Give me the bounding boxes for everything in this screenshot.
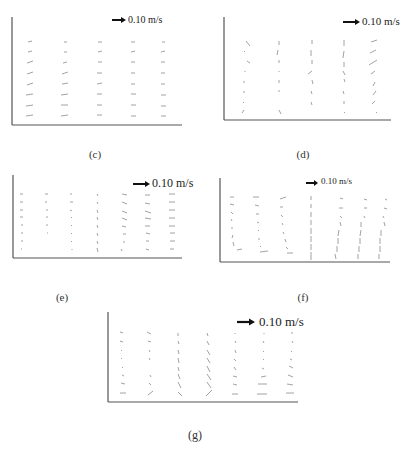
legend-label: 0.10 m/s	[152, 176, 193, 191]
vector-field	[120, 332, 294, 396]
vector-field	[26, 41, 166, 116]
panel-caption: (e)	[56, 291, 68, 303]
panel-caption: (c)	[89, 148, 101, 160]
panel-f: 0.10 m/s (f)	[200, 170, 404, 310]
quiver-plot-f	[200, 170, 404, 310]
panel-c: 0.10 m/s (c)	[0, 0, 200, 170]
vector-field	[20, 194, 175, 252]
panel-g: 0.10 m/s (g)	[100, 300, 320, 453]
legend-arrow-icon	[306, 180, 318, 186]
vector-field	[242, 40, 377, 114]
quiver-plot-e	[0, 170, 200, 310]
legend-arrow-icon	[133, 181, 150, 187]
legend-label: 0.10 m/s	[362, 15, 400, 27]
legend-label: 0.10 m/s	[321, 176, 352, 186]
panel-caption: (g)	[188, 428, 202, 443]
vector-field	[230, 196, 387, 260]
panel-caption: (d)	[297, 148, 310, 160]
legend-label: 0.10 m/s	[128, 14, 162, 25]
panel-e: 0.10 m/s (e)	[0, 170, 200, 310]
legend-arrow-icon	[237, 319, 255, 326]
legend-arrow-icon	[343, 19, 360, 25]
panel-d: 0.10 m/s (d)	[200, 0, 404, 170]
quiver-plot-c	[0, 0, 200, 170]
legend-arrow-icon	[112, 17, 126, 23]
legend-label: 0.10 m/s	[259, 314, 304, 330]
